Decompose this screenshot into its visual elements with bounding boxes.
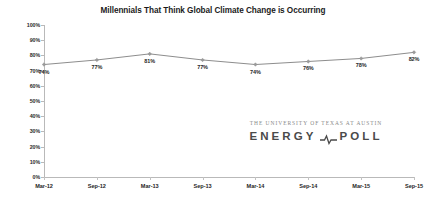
series-marker	[201, 58, 205, 62]
wordmark-poll: POLL	[340, 130, 383, 143]
data-label: 77%	[183, 64, 223, 70]
series-graphic	[0, 0, 426, 201]
series-marker	[95, 58, 99, 62]
data-label: 74%	[24, 69, 64, 75]
data-label: 78%	[341, 62, 381, 68]
wordmark-energy: ENERGY	[249, 130, 316, 143]
pulse-icon	[320, 131, 337, 142]
series-marker	[148, 52, 152, 56]
series-marker	[254, 63, 258, 67]
data-label: 82%	[394, 56, 426, 62]
series-marker	[42, 63, 46, 67]
data-label: 74%	[235, 69, 275, 75]
data-label: 77%	[77, 64, 117, 70]
data-label: 76%	[288, 65, 328, 71]
energy-poll-wordmark: ENERGY POLL	[228, 130, 404, 143]
series-marker	[359, 57, 363, 61]
series-marker	[306, 60, 310, 64]
series-marker	[412, 51, 416, 55]
data-label: 81%	[130, 58, 170, 64]
energy-poll-logo: THE UNIVERSITY OF TEXAS AT AUSTIN ENERGY…	[228, 119, 404, 143]
chart-container: Millennials That Think Global Climate Ch…	[0, 0, 426, 201]
university-name: THE UNIVERSITY OF TEXAS AT AUSTIN	[228, 119, 404, 127]
